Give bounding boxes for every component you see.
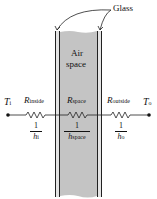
t-outside-label: To (143, 97, 152, 107)
r-space-label: Rspace (67, 96, 86, 105)
r-inside-label: Rinside (24, 96, 44, 105)
glass-label: Glass (113, 4, 133, 13)
frac-outside: 1ho (115, 122, 127, 141)
t-inside-label: Ti (4, 97, 11, 107)
frac-inside: 1hi (30, 122, 42, 141)
frac-space: 1hspace (64, 122, 90, 141)
r-outside-label: Routside (107, 96, 130, 105)
air-label: Air (71, 49, 83, 58)
space-label: space (66, 60, 86, 69)
glass-leader-right (100, 10, 111, 30)
